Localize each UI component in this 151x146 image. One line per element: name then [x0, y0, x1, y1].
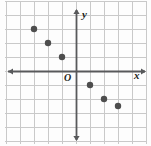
y-axis-label: y	[82, 9, 87, 20]
data-point	[115, 103, 121, 109]
coordinate-plane-figure: y x O	[0, 0, 151, 146]
data-point	[31, 26, 37, 32]
data-point	[87, 82, 93, 88]
data-point	[101, 96, 107, 102]
data-point	[45, 40, 51, 46]
y-axis-arrow-down	[73, 136, 79, 141]
plot-canvas	[0, 0, 151, 146]
x-axis-label: x	[134, 70, 140, 81]
data-point	[59, 54, 65, 60]
axes	[8, 9, 146, 141]
x-axis-arrow-left	[8, 68, 13, 74]
x-axis-arrow-right	[141, 68, 146, 74]
y-axis-arrow-up	[73, 9, 79, 14]
origin-label: O	[64, 73, 71, 83]
